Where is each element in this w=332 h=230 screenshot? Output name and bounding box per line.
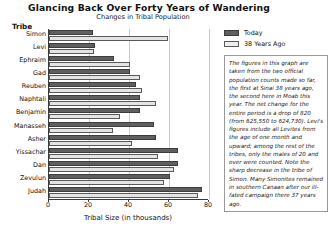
legend-label-today: Today — [244, 29, 262, 37]
legend-swatch-today — [224, 30, 239, 36]
bar-today — [49, 187, 202, 192]
chart-title: Glancing Back Over Forty Years of Wander… — [28, 2, 258, 13]
bar-past — [49, 62, 130, 67]
legend-item-today: Today — [224, 29, 328, 37]
y-axis-label-judah: Judah — [2, 187, 46, 195]
x-axis-title: Tribal Size (in thousands) — [48, 214, 208, 222]
bar-past — [49, 193, 198, 198]
y-axis-label-benjamin: Benjamin — [2, 108, 46, 116]
y-axis-label-yissachar: Yissachar — [2, 148, 46, 156]
bar-past — [49, 88, 142, 93]
bar-past — [49, 128, 113, 133]
y-axis-label-asher: Asher — [2, 135, 46, 143]
bar-today — [49, 148, 178, 153]
plot-area — [48, 29, 208, 200]
x-axis-label: 40 — [118, 201, 138, 209]
annotation-note: The figures in this graph are taken from… — [224, 55, 328, 212]
bar-today — [49, 108, 140, 113]
x-axis-label: 0 — [38, 201, 58, 209]
bar-today — [49, 161, 178, 166]
bar-today — [49, 135, 156, 140]
bar-row — [49, 108, 208, 121]
bar-today — [49, 95, 140, 100]
y-axis-label-ephraim: Ephraim — [2, 56, 46, 64]
bar-today — [49, 69, 130, 74]
bar-row — [49, 82, 208, 95]
gridline — [209, 29, 210, 199]
y-axis-label-manasseh: Manasseh — [2, 122, 46, 130]
bar-row — [49, 56, 208, 69]
bar-past — [49, 75, 140, 80]
x-axis-label: 80 — [198, 201, 218, 209]
bar-row — [49, 43, 208, 56]
legend-swatch-past — [224, 41, 239, 47]
y-axis-label-reuben: Reuben — [2, 82, 46, 90]
bar-today — [49, 43, 95, 48]
y-axis-label-levi: Levi — [2, 43, 46, 51]
legend-item-past: 38 Years Ago — [224, 40, 328, 48]
bar-past — [49, 141, 132, 146]
y-axis-label-dan: Dan — [2, 161, 46, 169]
chart-legend: Today 38 Years Ago — [224, 29, 328, 51]
chart-subtitle: Changes in Tribal Population — [28, 13, 258, 21]
y-axis-label-gad: Gad — [2, 69, 46, 77]
bar-row — [49, 95, 208, 108]
bar-row — [49, 148, 208, 161]
bar-past — [49, 36, 168, 41]
bar-today — [49, 30, 93, 35]
y-axis-label-simon: Simon — [2, 30, 46, 38]
bar-past — [49, 167, 174, 172]
bar-row — [49, 69, 208, 82]
x-axis-label: 20 — [78, 201, 98, 209]
bar-past — [49, 101, 156, 106]
bar-row — [49, 122, 208, 135]
bar-today — [49, 174, 170, 179]
y-axis-label-naphtali: Naphtali — [2, 95, 46, 103]
bar-rows — [49, 29, 208, 199]
bar-past — [49, 114, 120, 119]
bar-past — [49, 49, 94, 54]
y-axis-tick-labels: SimonLeviEphraimGadReubenNaphtaliBenjami… — [0, 29, 46, 200]
bar-today — [49, 82, 136, 87]
bar-row — [49, 187, 208, 200]
chart-page: Glancing Back Over Forty Years of Wander… — [0, 0, 332, 230]
x-axis-label: 60 — [158, 201, 178, 209]
bar-row — [49, 135, 208, 148]
bar-row — [49, 30, 208, 43]
bar-today — [49, 56, 114, 61]
bar-row — [49, 174, 208, 187]
bar-row — [49, 161, 208, 174]
y-axis-label-zevulun: Zevulun — [2, 174, 46, 182]
bar-past — [49, 154, 158, 159]
bar-today — [49, 122, 154, 127]
bar-past — [49, 180, 164, 185]
legend-label-past: 38 Years Ago — [244, 40, 285, 48]
